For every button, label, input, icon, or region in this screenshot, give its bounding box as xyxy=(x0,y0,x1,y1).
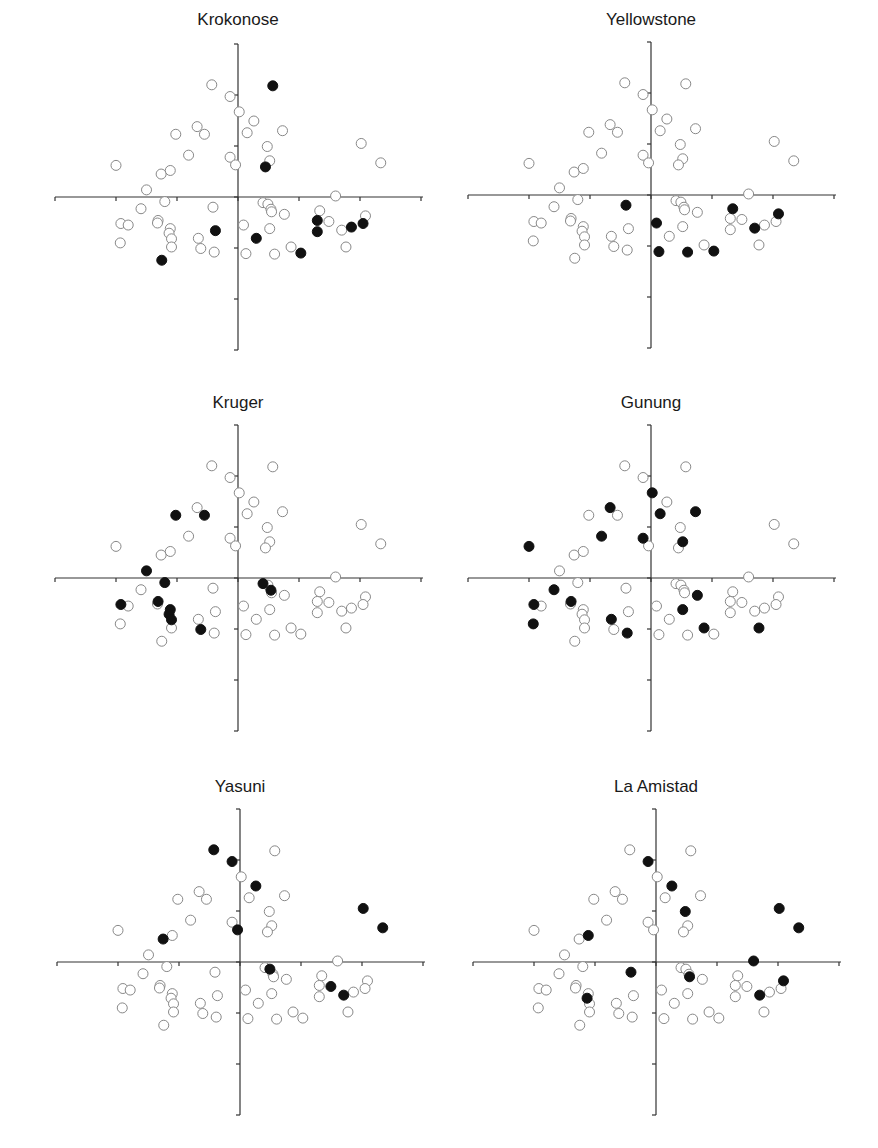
open-point xyxy=(609,242,619,252)
open-point xyxy=(337,225,347,235)
open-point xyxy=(536,218,546,228)
filled-point xyxy=(582,993,592,1003)
open-point xyxy=(193,233,203,243)
open-point xyxy=(184,531,194,541)
open-point xyxy=(243,1014,253,1024)
open-point xyxy=(570,253,580,263)
open-point xyxy=(267,207,277,217)
filled-point xyxy=(680,907,690,917)
filled-point xyxy=(524,541,534,551)
scatter-plot xyxy=(40,767,440,1137)
open-point xyxy=(156,550,166,560)
open-point xyxy=(113,925,123,935)
open-point xyxy=(655,126,665,136)
open-point xyxy=(337,606,347,616)
open-point xyxy=(654,630,664,640)
open-point xyxy=(278,507,288,517)
filled-point xyxy=(621,200,631,210)
open-point xyxy=(249,116,259,126)
open-point xyxy=(605,120,615,130)
open-points xyxy=(111,80,386,259)
open-point xyxy=(725,608,735,618)
open-point xyxy=(331,572,341,582)
open-point xyxy=(644,158,654,168)
open-point xyxy=(620,461,630,471)
open-point xyxy=(268,462,278,472)
open-point xyxy=(157,636,167,646)
scatter-plot xyxy=(451,383,851,753)
open-point xyxy=(156,169,166,179)
filled-point xyxy=(667,881,677,891)
open-point xyxy=(251,614,261,624)
open-point xyxy=(154,983,164,993)
open-point xyxy=(198,1009,208,1019)
open-point xyxy=(610,887,620,897)
open-point xyxy=(184,150,194,160)
open-point xyxy=(683,630,693,640)
open-point xyxy=(625,845,635,855)
open-point xyxy=(376,158,386,168)
open-point xyxy=(111,541,121,551)
filled-point xyxy=(251,881,261,891)
open-point xyxy=(208,583,218,593)
open-point xyxy=(606,231,616,241)
open-point xyxy=(341,623,351,633)
filled-point xyxy=(699,623,709,633)
filled-point xyxy=(655,509,665,519)
open-point xyxy=(580,623,590,633)
open-point xyxy=(341,242,351,252)
open-point xyxy=(173,894,183,904)
filled-point xyxy=(778,976,788,986)
open-point xyxy=(683,989,693,999)
open-point xyxy=(241,249,251,259)
open-point xyxy=(623,224,633,234)
open-point xyxy=(570,983,580,993)
filled-point xyxy=(685,972,695,982)
filled-point xyxy=(199,510,209,520)
open-point xyxy=(769,519,779,529)
filled-point xyxy=(529,600,539,610)
filled-point xyxy=(654,247,664,257)
open-point xyxy=(742,981,752,991)
open-point xyxy=(244,893,254,903)
filled-point xyxy=(227,857,237,867)
scatter-plot xyxy=(451,0,851,370)
open-point xyxy=(165,165,175,175)
filled-point xyxy=(605,503,615,513)
open-point xyxy=(267,989,277,999)
open-point xyxy=(744,572,754,582)
open-point xyxy=(136,204,146,214)
open-point xyxy=(662,497,672,507)
open-point xyxy=(210,967,220,977)
open-point xyxy=(280,891,290,901)
filled-point xyxy=(346,222,356,232)
open-point xyxy=(288,1007,298,1017)
open-point xyxy=(196,244,206,254)
open-point xyxy=(569,550,579,560)
open-point xyxy=(169,1007,179,1017)
filled-point xyxy=(755,990,765,1000)
open-point xyxy=(186,915,196,925)
open-point xyxy=(144,950,154,960)
open-point xyxy=(585,1007,595,1017)
open-point xyxy=(597,148,607,158)
panel-krokonose: Krokonose xyxy=(38,0,438,370)
open-point xyxy=(278,126,288,136)
open-point xyxy=(286,242,296,252)
open-point xyxy=(627,1012,637,1022)
open-point xyxy=(296,629,306,639)
axes xyxy=(468,42,836,348)
open-point xyxy=(249,497,259,507)
open-point xyxy=(136,585,146,595)
filled-point xyxy=(691,507,701,517)
filled-point xyxy=(678,537,688,547)
open-point xyxy=(691,124,701,134)
open-point xyxy=(125,985,135,995)
filled-point xyxy=(260,162,270,172)
open-point xyxy=(728,587,738,597)
open-point xyxy=(211,1012,221,1022)
filled-point xyxy=(196,625,206,635)
open-point xyxy=(737,597,747,607)
scatter-plot xyxy=(38,383,438,753)
open-point xyxy=(231,160,241,170)
